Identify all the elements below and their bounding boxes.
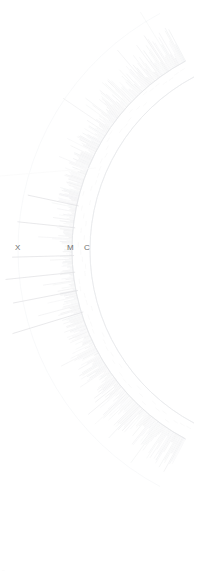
clade-connector-arc xyxy=(105,153,107,158)
leaf-tip xyxy=(63,231,73,232)
leaf-tip xyxy=(165,31,183,63)
leaf-tip xyxy=(71,346,95,358)
clade-connector-arc xyxy=(83,213,84,218)
leaf-tip xyxy=(69,172,85,178)
clade-connector-arc xyxy=(152,401,156,404)
clade-connector-arc xyxy=(119,129,122,133)
leaf-tip xyxy=(64,293,76,296)
clade-connector-arc xyxy=(128,384,131,388)
leaf-tip xyxy=(100,388,123,407)
leaf-tip xyxy=(165,63,170,71)
leaf-tip xyxy=(153,42,171,70)
leaf-tip xyxy=(75,333,88,339)
leaf-tip xyxy=(63,265,73,266)
clade-connector-arc xyxy=(92,329,94,334)
leaf-tip xyxy=(60,229,73,230)
leaf-tip xyxy=(140,12,174,67)
leaf-tip xyxy=(99,116,112,125)
branch-group xyxy=(72,61,194,439)
leaf-tip xyxy=(62,286,75,288)
clade-connector-arc xyxy=(107,138,110,142)
leaf-tip xyxy=(95,128,105,135)
leaf-tip xyxy=(85,151,94,155)
clade-connector-arc xyxy=(83,191,84,196)
clade-connector-arc xyxy=(137,106,141,110)
leaf-tip xyxy=(134,84,141,92)
leaf-tip xyxy=(69,182,82,186)
outer-tangent-line xyxy=(0,168,96,176)
clade-connector-arc xyxy=(112,360,115,364)
clade-connector-arc xyxy=(106,347,108,352)
leaf-tip xyxy=(159,37,176,66)
leaf-tip xyxy=(116,389,124,396)
leaf-tip xyxy=(38,305,79,316)
corner-artifact: ·· xyxy=(2,568,5,573)
clade-connector-arc xyxy=(186,426,190,428)
leaf-tip xyxy=(71,212,76,213)
clade-connector-arc xyxy=(88,315,90,320)
leaf-tip xyxy=(66,218,74,219)
leaf-tip xyxy=(120,103,126,108)
leaf-tip xyxy=(122,97,129,104)
leaf-tip xyxy=(70,221,74,222)
clade-connector-arc xyxy=(99,166,101,171)
leaf-tip xyxy=(108,113,116,119)
leaf-tip xyxy=(87,120,107,133)
leaf-tip xyxy=(138,63,153,82)
clade-connector-arc xyxy=(89,200,90,205)
leaf-tip xyxy=(146,77,151,83)
inner-backbone-arc xyxy=(90,77,194,423)
clade-connector-arc xyxy=(100,159,102,164)
clade-connector-arc xyxy=(106,145,109,150)
leaf-tip xyxy=(63,223,73,224)
clade-connector-arc xyxy=(95,180,97,185)
leaf-tip xyxy=(69,218,74,219)
clade-connector-arc xyxy=(86,300,87,305)
clade-connector-arc xyxy=(180,69,185,72)
clade-connector-arc xyxy=(140,393,144,397)
leaf-tip xyxy=(64,190,80,194)
clade-connector-arc xyxy=(143,102,147,106)
leaf-tip xyxy=(93,137,101,142)
leaf-tip xyxy=(60,271,73,272)
long-branch-3 xyxy=(12,256,74,258)
leaf-tip xyxy=(97,138,102,141)
leaf-label-x: X xyxy=(15,244,20,252)
leaf-tip xyxy=(63,233,73,234)
leaf-tip xyxy=(69,284,75,285)
clade-connector-arc xyxy=(180,423,184,426)
leaf-tip xyxy=(59,215,75,217)
leaf-tip xyxy=(153,72,158,79)
leaf-tip xyxy=(136,413,147,426)
leaf-tip xyxy=(128,90,136,98)
leaf-label-c: C xyxy=(84,244,90,252)
leaf-tip xyxy=(69,332,88,340)
leaf-tip xyxy=(70,285,75,286)
leaf-tip xyxy=(62,262,72,263)
leaf-tip xyxy=(137,45,160,77)
leaf-tip xyxy=(82,352,98,361)
leaf-tip xyxy=(71,287,76,288)
leaf-tip xyxy=(172,438,184,461)
clade-connector-arc xyxy=(119,364,122,368)
leaf-tip xyxy=(124,407,141,425)
clade-connector-arc xyxy=(102,332,104,337)
leaf-tip xyxy=(89,126,105,136)
leaf-tip xyxy=(52,239,72,240)
leaf-tip xyxy=(101,93,123,112)
leaf-tip xyxy=(95,134,103,139)
clade-connector-arc xyxy=(86,221,87,226)
visualization-root: X M C ·· xyxy=(0,0,221,581)
leaf-tip xyxy=(102,378,115,388)
leaf-tip xyxy=(138,76,148,87)
leaf-tip xyxy=(60,308,80,314)
leaf-label-m: M xyxy=(67,244,74,252)
leaf-tip xyxy=(64,325,85,333)
clade-connector-arc xyxy=(84,293,85,298)
leaf-tip xyxy=(99,124,108,130)
leaf-tip xyxy=(112,81,133,101)
leaf-tip xyxy=(62,304,79,308)
leaf-tip xyxy=(121,101,127,107)
leaf-tip xyxy=(69,178,83,183)
leaf-tip xyxy=(78,157,91,163)
